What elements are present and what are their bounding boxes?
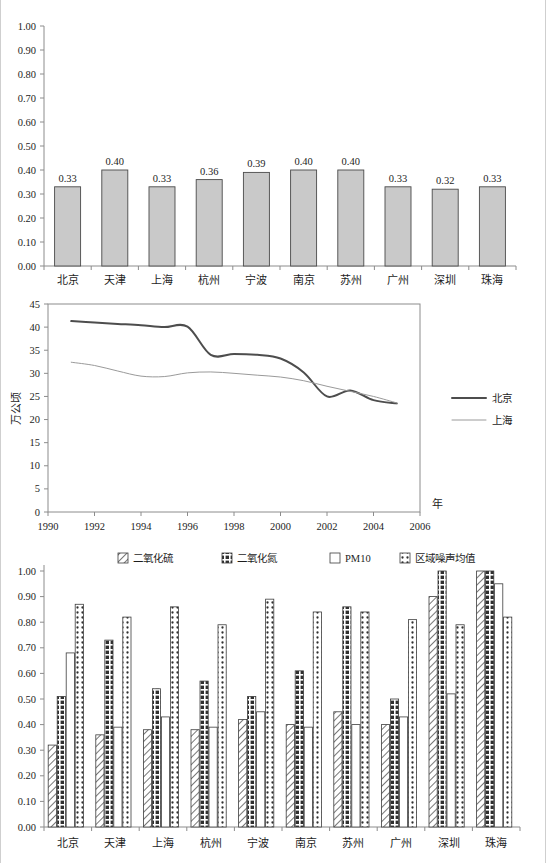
chart-1-y-tick-label: 0.00: [18, 261, 36, 272]
chart-3-y-tick-label: 0.90: [18, 591, 36, 602]
chart-3-bar: [75, 604, 83, 827]
chart-1-bar-value-label: 0.33: [153, 173, 171, 184]
chart-2-x-tick-label: 1992: [84, 521, 105, 532]
chart-1-bar: [196, 180, 222, 266]
chart-2-x-tick-label: 2004: [363, 521, 385, 532]
chart-2-y-tick-label: 0: [35, 507, 40, 518]
chart-2-svg: 0510152025303540451990199219941996199820…: [0, 290, 546, 545]
chart-2-y-axis-title: 万公顷: [10, 392, 22, 425]
chart-3-bar: [105, 640, 113, 827]
chart-1-x-tick-label: 南京: [293, 273, 315, 286]
chart-1-bar: [338, 170, 364, 266]
chart-1-x-tick-label: 广州: [387, 274, 409, 286]
chart-2-plot: 0510152025303540451990199219941996199820…: [10, 299, 513, 533]
chart-3-bar: [239, 719, 247, 827]
chart-3-bar: [390, 699, 398, 827]
chart-3-bar: [257, 712, 265, 827]
chart-1-y-tick-label: 1.00: [18, 21, 36, 32]
chart-3-x-tick-label: 南京: [295, 836, 317, 849]
chart-2-legend-label: 上海: [492, 414, 513, 426]
chart-3-bar: [123, 617, 131, 827]
chart-1-bar-value-label: 0.40: [342, 156, 360, 167]
chart-3-legend-label: 区域噪声均值: [415, 552, 476, 564]
chart-1-x-tick-label: 深圳: [434, 274, 456, 286]
chart-3-bar: [114, 727, 122, 827]
chart-3-x-tick-label: 苏州: [342, 837, 364, 849]
chart-3-bar: [361, 612, 369, 827]
chart-3-bar: [57, 696, 65, 827]
chart-3-bar: [218, 625, 226, 827]
chart-3-panel: 0.000.100.200.300.400.500.600.700.800.90…: [0, 545, 546, 863]
chart-3-bar: [477, 571, 485, 827]
chart-3-y-tick-label: 0.80: [18, 617, 36, 628]
chart-2-y-tick-label: 20: [30, 414, 41, 425]
chart-3-bar: [504, 617, 512, 827]
chart-1-bar: [55, 187, 81, 266]
page-root: 0.000.100.200.300.400.500.600.700.800.90…: [0, 0, 546, 863]
chart-1-y-tick-label: 0.40: [18, 165, 36, 176]
chart-1-y-tick-label: 0.80: [18, 69, 36, 80]
chart-3-y-tick-label: 0.60: [18, 668, 36, 679]
chart-2-x-tick-label: 2000: [270, 521, 291, 532]
chart-1-bar: [243, 172, 269, 266]
chart-1-bar-value-label: 0.39: [247, 158, 265, 169]
chart-1-y-tick-label: 0.50: [18, 141, 36, 152]
chart-3-legend-swatch: [118, 553, 128, 563]
chart-1-x-tick-label: 苏州: [340, 274, 362, 286]
chart-3-bar: [48, 745, 56, 827]
chart-1-bar-value-label: 0.33: [483, 173, 501, 184]
chart-3-bar: [343, 607, 351, 827]
chart-1-bar: [291, 170, 317, 266]
chart-3-bar: [161, 717, 169, 827]
chart-1-y-tick-label: 0.90: [18, 45, 36, 56]
chart-3-x-tick-label: 上海: [152, 836, 174, 849]
chart-3-x-tick-label: 北京: [57, 836, 79, 849]
chart-3-bar: [266, 599, 274, 827]
chart-3-legend-swatch: [222, 553, 232, 563]
chart-3-bar: [486, 571, 494, 827]
chart-3-bar: [352, 725, 360, 827]
chart-3-legend-swatch: [400, 553, 410, 563]
chart-2-legend-label: 北京: [492, 392, 512, 404]
chart-3-bar: [429, 597, 437, 827]
chart-3-bar: [209, 727, 217, 827]
chart-2-y-tick-label: 40: [30, 322, 41, 333]
chart-3-bar: [399, 717, 407, 827]
chart-1-x-tick-label: 上海: [151, 273, 173, 286]
chart-3-bar: [334, 712, 342, 827]
chart-1-x-tick-label: 北京: [57, 273, 79, 286]
chart-1-y-tick-label: 0.60: [18, 117, 36, 128]
chart-1-bar: [432, 189, 458, 266]
chart-1-bar-value-label: 0.33: [389, 173, 407, 184]
chart-3-y-tick-label: 1.00: [18, 566, 36, 577]
chart-3-bar: [438, 571, 446, 827]
chart-3-y-tick-label: 0.00: [18, 822, 36, 833]
chart-1-bar: [149, 187, 175, 266]
chart-1-bar: [479, 187, 505, 266]
chart-2-plot-frame: [48, 304, 420, 512]
chart-3-x-tick-label: 珠海: [485, 836, 507, 849]
chart-3-y-tick-label: 0.50: [18, 694, 36, 705]
chart-1-bar-value-label: 0.36: [200, 166, 218, 177]
chart-3-bar: [495, 584, 503, 827]
chart-3-y-tick-label: 0.30: [18, 745, 36, 756]
chart-2-y-tick-label: 10: [30, 460, 41, 471]
chart-1-bar: [385, 187, 411, 266]
chart-1-svg: 0.000.100.200.300.400.500.600.700.800.90…: [0, 0, 546, 290]
chart-3-bar: [456, 625, 464, 827]
chart-1-panel: 0.000.100.200.300.400.500.600.700.800.90…: [0, 0, 546, 290]
chart-3-bar: [304, 727, 312, 827]
chart-3-legend-label: PM10: [345, 553, 371, 564]
chart-3-legend-label: 二氧化硫: [133, 552, 174, 564]
chart-1-bar-value-label: 0.33: [58, 173, 76, 184]
chart-2-panel: 0510152025303540451990199219941996199820…: [0, 290, 546, 545]
chart-3-bar: [248, 696, 256, 827]
chart-2-x-tick-label: 1996: [177, 521, 198, 532]
chart-3-bar: [200, 681, 208, 827]
chart-1-x-tick-label: 杭州: [198, 273, 220, 286]
chart-3-y-tick-label: 0.40: [18, 719, 36, 730]
chart-1-y-tick-label: 0.70: [18, 93, 36, 104]
chart-3-x-tick-label: 天津: [104, 837, 126, 849]
chart-3-bar: [96, 735, 104, 827]
chart-1-bar-value-label: 0.40: [294, 156, 312, 167]
